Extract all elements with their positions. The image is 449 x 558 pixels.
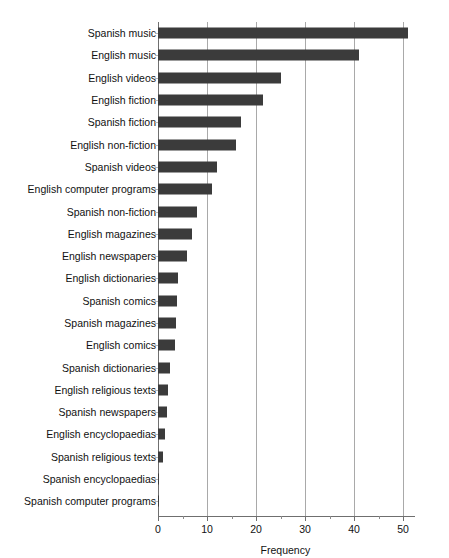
bar xyxy=(158,161,217,172)
category-label: English fiction xyxy=(91,95,156,106)
x-tick-major-20 xyxy=(256,516,257,521)
bar-row: English comics xyxy=(0,334,449,356)
bar xyxy=(158,251,187,262)
bar-row: Spanish videos xyxy=(0,156,449,178)
category-label: Spanish comics xyxy=(82,295,156,306)
bar-chart: Spanish musicEnglish musicEnglish videos… xyxy=(0,0,449,558)
bar xyxy=(158,407,167,418)
bar xyxy=(158,362,170,373)
bar xyxy=(158,340,175,351)
bar xyxy=(158,184,212,195)
bar xyxy=(158,206,197,217)
category-label: English dictionaries xyxy=(66,273,156,284)
x-axis-label: Frequency xyxy=(158,544,413,556)
category-label: English comics xyxy=(86,340,156,351)
bar xyxy=(158,474,159,485)
bar-row: English encyclopaedias xyxy=(0,423,449,445)
x-tick-minor-25 xyxy=(281,516,282,519)
x-tick-label: 20 xyxy=(250,523,262,535)
bar xyxy=(158,429,165,440)
bar xyxy=(158,139,236,150)
bar-row: English magazines xyxy=(0,223,449,245)
category-label: English videos xyxy=(88,72,156,83)
x-axis-line xyxy=(158,516,415,517)
bar-row: Spanish magazines xyxy=(0,312,449,334)
category-label: Spanish newspapers xyxy=(59,407,156,418)
bar-row: English newspapers xyxy=(0,245,449,267)
bar-row: English dictionaries xyxy=(0,267,449,289)
bar-row: Spanish fiction xyxy=(0,111,449,133)
x-tick-major-0 xyxy=(158,516,159,521)
category-label: Spanish fiction xyxy=(88,117,156,128)
x-tick-minor-45 xyxy=(379,516,380,519)
bar-row: Spanish encyclopaedias xyxy=(0,468,449,490)
bar xyxy=(158,28,408,39)
x-tick-major-50 xyxy=(403,516,404,521)
category-label: Spanish religious texts xyxy=(51,451,156,462)
x-tick-minor-5 xyxy=(183,516,184,519)
category-label: English encyclopaedias xyxy=(46,429,156,440)
category-label: English music xyxy=(91,50,156,61)
x-tick-label: 30 xyxy=(299,523,311,535)
bar-row: English music xyxy=(0,44,449,66)
bar xyxy=(158,451,163,462)
category-label: Spanish music xyxy=(88,28,156,39)
category-label: Spanish computer programs xyxy=(24,496,156,507)
bar xyxy=(158,295,177,306)
bar-row: English non-fiction xyxy=(0,133,449,155)
category-label: English newspapers xyxy=(62,251,156,262)
category-label: Spanish dictionaries xyxy=(62,362,156,373)
category-rows: Spanish musicEnglish musicEnglish videos… xyxy=(0,22,449,513)
x-tick-major-10 xyxy=(207,516,208,521)
bar-row: Spanish dictionaries xyxy=(0,356,449,378)
bar xyxy=(158,95,263,106)
category-label: English non-fiction xyxy=(70,139,156,150)
bar-row: Spanish music xyxy=(0,22,449,44)
bar-row: English religious texts xyxy=(0,379,449,401)
category-label: Spanish encyclopaedias xyxy=(43,474,156,485)
bar xyxy=(158,72,281,83)
x-tick-minor-15 xyxy=(232,516,233,519)
category-label: Spanish non-fiction xyxy=(67,206,156,217)
bar-row: English videos xyxy=(0,67,449,89)
bar xyxy=(158,384,168,395)
bar-row: Spanish computer programs xyxy=(0,490,449,512)
category-label: English religious texts xyxy=(54,384,156,395)
x-tick-label: 40 xyxy=(348,523,360,535)
x-tick-label: 50 xyxy=(397,523,409,535)
x-tick-minor-35 xyxy=(330,516,331,519)
x-tick-major-30 xyxy=(305,516,306,521)
category-label: Spanish videos xyxy=(85,161,156,172)
bar-row: Spanish comics xyxy=(0,290,449,312)
bar-row: Spanish newspapers xyxy=(0,401,449,423)
bar-row: Spanish non-fiction xyxy=(0,200,449,222)
category-label: English magazines xyxy=(68,228,156,239)
x-tick-label: 0 xyxy=(155,523,161,535)
bar xyxy=(158,496,159,507)
bar-row: English fiction xyxy=(0,89,449,111)
plot-area: Spanish musicEnglish musicEnglish videos… xyxy=(0,0,449,558)
bar xyxy=(158,318,176,329)
bar-row: Spanish religious texts xyxy=(0,446,449,468)
bar xyxy=(158,273,178,284)
bar xyxy=(158,228,192,239)
category-label: English computer programs xyxy=(28,184,156,195)
category-label: Spanish magazines xyxy=(64,318,156,329)
bar-row: English computer programs xyxy=(0,178,449,200)
bar xyxy=(158,50,359,61)
x-tick-major-40 xyxy=(354,516,355,521)
bar xyxy=(158,117,241,128)
x-tick-label: 10 xyxy=(201,523,213,535)
